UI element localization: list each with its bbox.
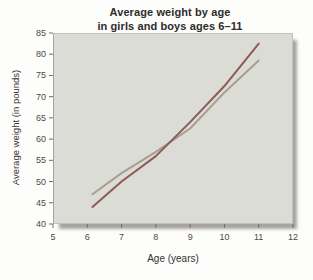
x-tick-label: 12 xyxy=(288,232,298,242)
y-tick-label: 75 xyxy=(36,70,46,80)
y-tick-label: 45 xyxy=(36,198,46,208)
y-tick-label: 55 xyxy=(36,155,46,165)
y-tick-label: 60 xyxy=(36,134,46,144)
y-tick-label: 80 xyxy=(36,49,46,59)
x-tick-label: 11 xyxy=(254,232,263,242)
y-tick-label: 70 xyxy=(36,92,46,102)
y-tick-label: 50 xyxy=(36,177,46,187)
y-axis-label: Average weight (in pounds) xyxy=(10,52,21,204)
y-tick-label: 85 xyxy=(36,28,46,38)
x-tick-label: 5 xyxy=(50,232,55,242)
y-tick-label: 40 xyxy=(36,219,46,229)
weight-by-age-chart: Average weight by age in girls and boys … xyxy=(0,0,313,280)
dark-red-line xyxy=(92,44,258,207)
chart-canvas: 5678910111240455055606570758085 xyxy=(0,0,313,280)
x-axis-label: Age (years) xyxy=(53,253,293,264)
x-tick-label: 7 xyxy=(119,232,124,242)
x-tick-label: 6 xyxy=(85,232,90,242)
x-tick-label: 10 xyxy=(219,232,229,242)
tan-line xyxy=(92,61,258,195)
y-tick-label: 65 xyxy=(36,113,46,123)
x-tick-label: 8 xyxy=(153,232,158,242)
x-tick-label: 9 xyxy=(188,232,193,242)
